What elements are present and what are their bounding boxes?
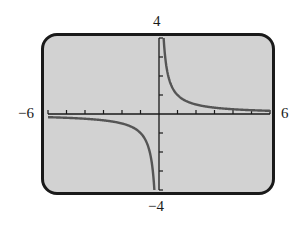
y-min-label: −4 xyxy=(148,199,164,214)
graph-plot xyxy=(0,0,294,228)
curve-left-branch xyxy=(48,117,154,190)
y-max-label: 4 xyxy=(153,14,161,29)
x-min-label: −6 xyxy=(18,106,34,121)
x-max-label: 6 xyxy=(281,106,289,121)
curve-right-branch xyxy=(164,38,270,111)
